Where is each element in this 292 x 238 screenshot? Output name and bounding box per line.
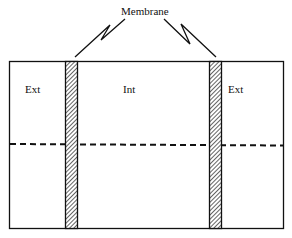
- region-label-left-ext: Ext: [25, 84, 40, 95]
- right-membrane-strip: [210, 62, 222, 229]
- right-membrane-pointer-icon: [164, 19, 216, 57]
- region-label-right-ext: Ext: [228, 84, 243, 95]
- region-label-int: Int: [123, 84, 135, 95]
- membrane-diagram: [0, 0, 292, 238]
- left-membrane-strip: [66, 62, 78, 229]
- left-membrane-pointer-icon: [75, 19, 125, 57]
- membrane-label: Membrane: [121, 6, 169, 17]
